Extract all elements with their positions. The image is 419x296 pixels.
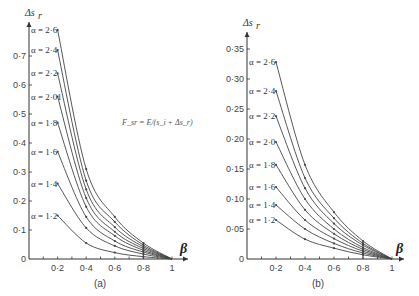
y-axis-title-subscript: r (38, 10, 42, 21)
data-point (114, 216, 116, 218)
x-tick-label: 1 (169, 263, 174, 273)
y-tick-label: 0·25 (226, 104, 244, 114)
data-point (304, 198, 306, 200)
series-label: α = 1·2 (249, 215, 275, 225)
data-point (333, 228, 335, 230)
panel-a-label: (a) (94, 278, 106, 289)
chart-panel-a: Δsrβ0·20·40·60·8100·10·20·30·40·50·60·7α… (13, 7, 188, 273)
x-axis-arrow-icon (183, 257, 188, 262)
y-tick-label: 0·05 (226, 224, 244, 234)
series-label: α = 1·6 (31, 147, 58, 157)
series-label: α = 1·2 (31, 211, 57, 221)
data-point (304, 238, 306, 240)
y-axis-title: Δs (242, 17, 253, 28)
x-tick-label: 0·6 (327, 263, 340, 273)
data-point (85, 242, 87, 244)
y-tick-label: 0 (239, 254, 244, 264)
series-curve (58, 152, 172, 259)
figure: Δsrβ0·20·40·60·8100·10·20·30·40·50·60·7α… (0, 0, 419, 296)
series-label: α = 1·6 (249, 182, 276, 192)
y-tick-label: 0·2 (13, 196, 26, 206)
data-point (333, 233, 335, 235)
x-tick-label: 0·6 (108, 263, 121, 273)
x-axis-title: β (395, 241, 404, 256)
series-curve (276, 142, 392, 259)
y-tick-label: 0·7 (13, 51, 26, 61)
series-label: α = 1·4 (249, 200, 276, 210)
data-point (304, 228, 306, 230)
data-point (333, 242, 335, 244)
data-point (114, 221, 116, 223)
y-tick-label: 0·1 (13, 225, 26, 235)
series-label: α = 2·4 (31, 45, 58, 55)
x-tick-label: 0·4 (298, 263, 311, 273)
series-label: α = 2·2 (249, 111, 275, 121)
series-label: α = 1·8 (31, 118, 58, 128)
data-point (85, 197, 87, 199)
y-tick-label: 0·30 (226, 74, 244, 84)
y-tick-label: 0·4 (13, 138, 26, 148)
y-tick-label: 0·5 (13, 109, 26, 119)
series-label: α = 2·01 (31, 92, 62, 102)
y-tick-label: 0 (21, 254, 26, 264)
data-point (114, 252, 116, 254)
x-tick-label: 0·8 (137, 263, 150, 273)
x-tick-label: 0·8 (356, 263, 369, 273)
y-tick-label: 0·35 (226, 44, 244, 54)
data-point (114, 235, 116, 237)
formula-annotation: F_sr = E/(s_i + Δs_r) (121, 118, 193, 127)
y-axis-title-subscript: r (256, 20, 260, 31)
data-point (333, 238, 335, 240)
data-point (304, 177, 306, 179)
x-axis-arrow-icon (399, 257, 404, 262)
series-label: α = 1·4 (31, 179, 58, 189)
data-point (333, 247, 335, 249)
data-point (85, 227, 87, 229)
data-point (333, 223, 335, 225)
series-label: α = 2·2 (31, 68, 57, 78)
data-point (114, 226, 116, 228)
data-point (85, 188, 87, 190)
data-point (114, 240, 116, 242)
x-tick-label: 0·4 (80, 263, 93, 273)
y-tick-label: 0·3 (13, 167, 26, 177)
x-tick-label: 0·2 (51, 263, 64, 273)
data-point (333, 217, 335, 219)
y-tick-label: 0·6 (13, 80, 26, 90)
x-tick-label: 0·2 (269, 263, 282, 273)
x-axis-title: β (179, 241, 188, 256)
series-curve (58, 30, 172, 259)
y-tick-label: 0·20 (226, 134, 244, 144)
data-point (114, 231, 116, 233)
panel-b-label: (b) (312, 278, 324, 289)
series-label: α = 2·6 (31, 25, 58, 35)
series-label: α = 2·0 (249, 137, 276, 147)
data-point (85, 216, 87, 218)
data-point (85, 168, 87, 170)
series-label: α = 2·6 (249, 57, 276, 67)
series-label: α = 1·8 (249, 160, 276, 170)
data-point (114, 245, 116, 247)
series-label: α = 2·4 (249, 86, 276, 96)
y-tick-label: 0·10 (226, 194, 244, 204)
chart-panel-b: Δsrβ0·20·40·60·8100·050·100·150·200·250·… (226, 17, 404, 273)
data-point (304, 187, 306, 189)
y-axis-title: Δs (24, 7, 35, 18)
x-tick-label: 1 (389, 263, 394, 273)
data-point (304, 219, 306, 221)
data-point (304, 164, 306, 166)
data-point (304, 209, 306, 211)
y-axis-arrow-icon (245, 32, 250, 37)
y-tick-label: 0·15 (226, 164, 244, 174)
data-point (333, 211, 335, 213)
data-point (85, 206, 87, 208)
series-curve (58, 123, 172, 259)
data-point (85, 180, 87, 182)
